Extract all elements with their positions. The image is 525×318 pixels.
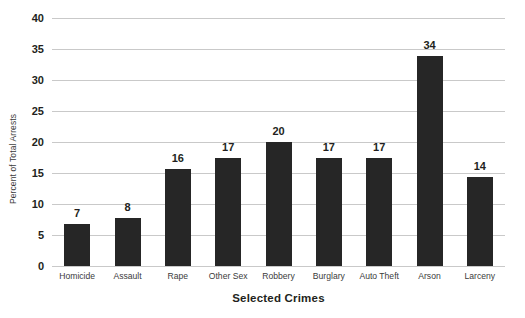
y-axis-tick-label: 0 <box>14 261 44 272</box>
gridline <box>52 266 505 267</box>
bars-layer: 7816172017173414 <box>52 18 505 266</box>
y-axis-tick-label: 25 <box>14 106 44 117</box>
y-axis-tick-label: 20 <box>14 137 44 148</box>
bar <box>215 158 241 266</box>
bar-value-label: 8 <box>103 202 153 213</box>
bar <box>316 158 342 266</box>
x-axis-title: Selected Crimes <box>52 292 505 304</box>
plot-area: 7816172017173414 <box>52 18 505 266</box>
bar <box>417 56 443 266</box>
bar-value-label: 20 <box>254 126 304 137</box>
x-axis-category-label: Larceny <box>449 272 511 281</box>
bar-value-label: 7 <box>52 208 102 219</box>
x-axis-category-labels: HomicideAssaultRapeOther SexRobberyBurgl… <box>52 272 505 288</box>
bar <box>266 142 292 266</box>
y-axis-tick-label: 40 <box>14 13 44 24</box>
y-axis-tick-label: 5 <box>14 230 44 241</box>
bar-group: 34 <box>417 18 443 266</box>
bar-group: 17 <box>366 18 392 266</box>
bar-value-label: 17 <box>304 142 354 153</box>
bar-group: 20 <box>266 18 292 266</box>
bar-value-label: 17 <box>203 142 253 153</box>
bar-value-label: 16 <box>153 153 203 164</box>
bar <box>64 224 90 266</box>
bar-value-label: 17 <box>354 142 404 153</box>
bar-chart: Percent of Total Arrests 051015202530354… <box>0 0 525 318</box>
y-axis-tick-label: 15 <box>14 168 44 179</box>
bar-group: 8 <box>115 18 141 266</box>
bar <box>115 218 141 266</box>
bar-value-label: 14 <box>455 161 505 172</box>
bar <box>165 169 191 266</box>
bar-value-label: 34 <box>405 40 455 51</box>
bar <box>366 158 392 266</box>
bar <box>467 177 493 266</box>
bar-group: 16 <box>165 18 191 266</box>
bar-group: 7 <box>64 18 90 266</box>
bar-group: 17 <box>316 18 342 266</box>
y-axis-tick-label: 10 <box>14 199 44 210</box>
bar-group: 14 <box>467 18 493 266</box>
y-axis-tick-label: 35 <box>14 44 44 55</box>
y-axis-tick-label: 30 <box>14 75 44 86</box>
bar-group: 17 <box>215 18 241 266</box>
